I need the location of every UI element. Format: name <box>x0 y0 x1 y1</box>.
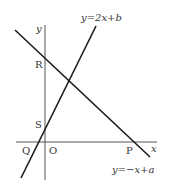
point-label-p: P <box>126 145 133 156</box>
coordinate-diagram: y x R S Q O P y=2x+b y=−x+a <box>0 0 170 195</box>
point-label-r: R <box>35 59 43 70</box>
line-2x-plus-b <box>21 26 96 178</box>
equation-label-line2: y=−x+a <box>111 164 154 175</box>
point-label-q: Q <box>22 145 30 156</box>
point-label-o: O <box>49 145 57 156</box>
y-axis-label: y <box>35 23 42 34</box>
x-axis-label: x <box>151 143 157 154</box>
line-neg-x-plus-a <box>15 30 150 157</box>
point-label-s: S <box>35 119 42 130</box>
equation-label-line1: y=2x+b <box>80 12 122 23</box>
